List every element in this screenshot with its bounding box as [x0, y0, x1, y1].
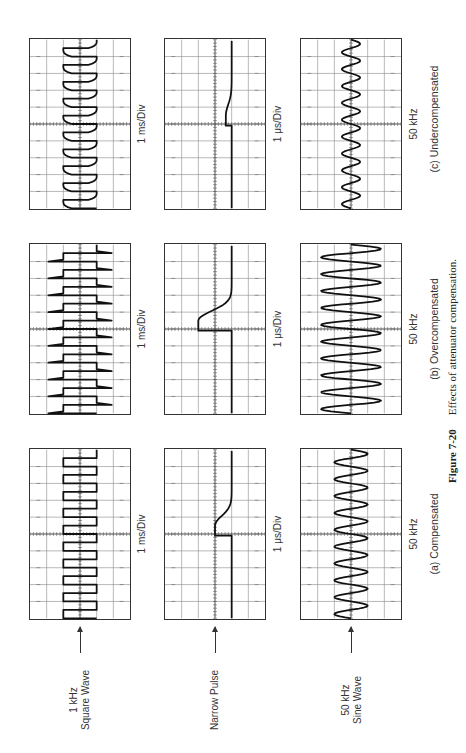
- column-caption-undercompensated: (c) Undercompensated: [428, 54, 440, 184]
- waveform-plot: [165, 244, 265, 414]
- timebase-label: 1 ms/Div: [136, 94, 147, 154]
- scope-square-compensated: [29, 448, 131, 620]
- waveform-plot: [30, 449, 130, 619]
- timebase-label: 1 μs/Div: [272, 94, 283, 154]
- scope-sine-compensated: [300, 448, 402, 620]
- figure-caption: Figure 7-20Effects of attenuator compens…: [446, 259, 458, 483]
- scope-pulse-undercompensated: [164, 38, 266, 210]
- row-label-square-wave: 1 kHz Square Wave: [68, 655, 92, 745]
- waveform-plot: [165, 449, 265, 619]
- waveform-plot: [301, 39, 401, 209]
- arrow-icon: [80, 627, 81, 653]
- waveform-plot: [301, 449, 401, 619]
- waveform-plot: [165, 39, 265, 209]
- waveform-plot: [30, 244, 130, 414]
- scope-sine-overcompensated: [300, 243, 402, 415]
- arrow-icon: [215, 627, 216, 653]
- column-caption-compensated: (a) Compensated: [428, 474, 440, 594]
- row-label-line: 1 kHz: [68, 655, 80, 745]
- scope-square-undercompensated: [29, 38, 131, 210]
- timebase-label: 1 μs/Div: [272, 504, 283, 564]
- timebase-label: 1 ms/Div: [136, 299, 147, 359]
- timebase-label: 50 kHz: [408, 94, 419, 154]
- figure-title: Effects of attenuator compensation.: [446, 259, 458, 415]
- figure-number: Figure 7-20: [446, 429, 458, 483]
- scope-square-overcompensated: [29, 243, 131, 415]
- row-label-narrow-pulse: Narrow Pulse: [209, 655, 221, 745]
- scope-pulse-compensated: [164, 448, 266, 620]
- scope-sine-undercompensated: [300, 38, 402, 210]
- row-label-line: 50 kHz: [340, 655, 352, 745]
- figure-page: 1 kHz Square Wave Narrow Pulse 50 kHz Si…: [0, 0, 466, 753]
- row-label-sine-wave: 50 kHz Sine Wave: [340, 655, 364, 745]
- arrow-icon: [351, 627, 352, 653]
- timebase-label: 1 μs/Div: [272, 299, 283, 359]
- row-label-line: Sine Wave: [352, 655, 364, 745]
- column-caption-overcompensated: (b) Overcompensated: [428, 269, 440, 389]
- timebase-label: 1 ms/Div: [136, 504, 147, 564]
- waveform-plot: [30, 39, 130, 209]
- timebase-label: 50 kHz: [408, 504, 419, 564]
- scope-pulse-overcompensated: [164, 243, 266, 415]
- row-label-line: Narrow Pulse: [209, 655, 221, 745]
- row-label-line: Square Wave: [80, 655, 92, 745]
- waveform-plot: [301, 244, 401, 414]
- timebase-label: 50 kHz: [408, 299, 419, 359]
